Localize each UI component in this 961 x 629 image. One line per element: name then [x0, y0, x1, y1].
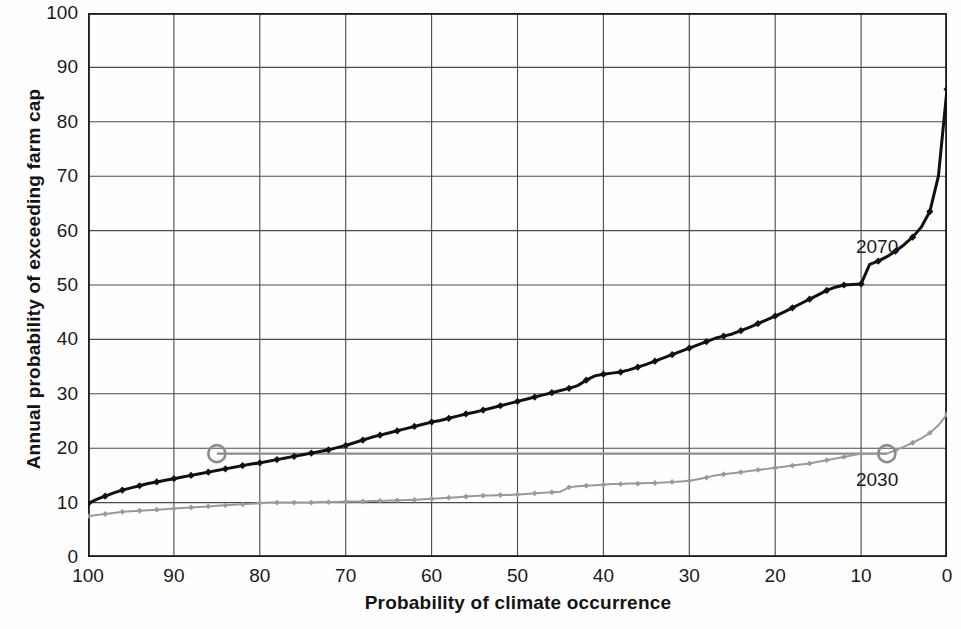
series-marker-2030	[789, 463, 795, 469]
series-marker-2030	[755, 467, 761, 473]
series-marker-2070	[600, 371, 607, 378]
series-marker-2030	[652, 480, 658, 486]
x-tick-label: 80	[230, 566, 290, 585]
series-marker-2030	[119, 509, 125, 515]
series-marker-2030	[137, 508, 143, 514]
y-tick-label: 100	[32, 3, 78, 22]
series-marker-2030	[412, 497, 418, 503]
y-tick-label: 0	[32, 547, 78, 566]
series-marker-2030	[686, 478, 692, 484]
y-tick-label: 10	[32, 493, 78, 512]
x-tick-label: 20	[745, 566, 805, 585]
series-marker-2070	[394, 427, 401, 434]
series-marker-2030	[669, 479, 675, 485]
series-marker-2070	[445, 415, 452, 422]
series-marker-2070	[153, 478, 160, 485]
x-tick-label: 10	[831, 566, 891, 585]
series-marker-2070	[205, 469, 212, 476]
series-marker-2070	[376, 432, 383, 439]
series-marker-2070	[428, 418, 435, 425]
series-marker-2030	[497, 492, 503, 498]
x-tick-label: 70	[316, 566, 376, 585]
chart-figure: Annual probability of exceeding farm cap…	[0, 0, 961, 629]
series-marker-2070	[273, 456, 280, 463]
series-label-2070: 2070	[856, 237, 898, 256]
plot-area	[88, 13, 947, 557]
series-marker-2030	[102, 511, 108, 517]
series-marker-2030	[291, 500, 297, 506]
series-marker-2030	[463, 494, 469, 500]
x-tick-label: 90	[144, 566, 204, 585]
series-marker-2030	[704, 475, 710, 481]
series-marker-2030	[601, 482, 607, 488]
series-marker-2030	[308, 500, 314, 506]
series-marker-2070	[325, 446, 332, 453]
y-tick-label: 70	[32, 166, 78, 185]
x-tick-label: 30	[659, 566, 719, 585]
series-marker-2070	[411, 423, 418, 430]
series-marker-2030	[154, 507, 160, 513]
series-marker-2070	[634, 364, 641, 371]
series-label-2030: 2030	[856, 470, 898, 489]
series-marker-2030	[721, 471, 727, 477]
series-marker-2070	[308, 449, 315, 456]
y-tick-label: 80	[32, 112, 78, 131]
series-marker-2030	[583, 483, 589, 489]
series-marker-2030	[738, 469, 744, 475]
series-marker-2030	[824, 457, 830, 463]
series-marker-2030	[532, 490, 538, 496]
series-marker-2030	[171, 506, 177, 512]
y-tick-label: 30	[32, 384, 78, 403]
series-marker-2030	[549, 489, 555, 495]
x-tick-label: 50	[488, 566, 548, 585]
x-tick-label: 100	[58, 566, 118, 585]
series-marker-2030	[618, 481, 624, 487]
series-marker-2030	[772, 465, 778, 471]
x-tick-label: 40	[573, 566, 633, 585]
series-marker-2070	[170, 475, 177, 482]
series-marker-2070	[462, 410, 469, 417]
series-marker-2030	[188, 505, 194, 511]
series-marker-2030	[480, 493, 486, 499]
series-marker-2030	[429, 496, 435, 502]
series-marker-2030	[858, 451, 864, 457]
series-marker-2030	[515, 492, 521, 498]
series-marker-2070	[617, 368, 624, 375]
series-marker-2030	[205, 504, 211, 510]
y-tick-label: 20	[32, 438, 78, 457]
series-marker-2030	[635, 481, 641, 487]
series-marker-2030	[446, 495, 452, 501]
chart-svg	[88, 13, 947, 557]
series-marker-2070	[514, 398, 521, 405]
series-marker-2070	[720, 333, 727, 340]
y-tick-label: 50	[32, 275, 78, 294]
series-marker-2030	[807, 461, 813, 467]
series-marker-2030	[343, 499, 349, 505]
series-marker-2030	[274, 500, 280, 506]
series-marker-2070	[187, 472, 194, 479]
y-tick-label: 90	[32, 57, 78, 76]
series-marker-2070	[497, 402, 504, 409]
series-marker-2070	[359, 436, 366, 443]
series-marker-2070	[222, 465, 229, 472]
x-axis-title: Probability of climate occurrence	[88, 592, 948, 614]
y-tick-label: 40	[32, 329, 78, 348]
series-marker-2070	[239, 462, 246, 469]
y-tick-label: 60	[32, 221, 78, 240]
series-marker-2070	[840, 281, 847, 288]
series-marker-2070	[136, 482, 143, 489]
series-marker-2030	[326, 499, 332, 505]
series-marker-2070	[480, 407, 487, 414]
series-marker-2070	[548, 389, 555, 396]
x-tick-label: 60	[402, 566, 462, 585]
series-marker-2030	[841, 454, 847, 460]
series-marker-2030	[360, 499, 366, 505]
series-marker-2030	[223, 502, 229, 508]
x-tick-label: 0	[917, 566, 961, 585]
series-marker-2070	[256, 459, 263, 466]
series-marker-2070	[531, 393, 538, 400]
series-marker-2070	[565, 385, 572, 392]
series-marker-2030	[257, 500, 263, 506]
series-marker-2070	[119, 486, 126, 493]
